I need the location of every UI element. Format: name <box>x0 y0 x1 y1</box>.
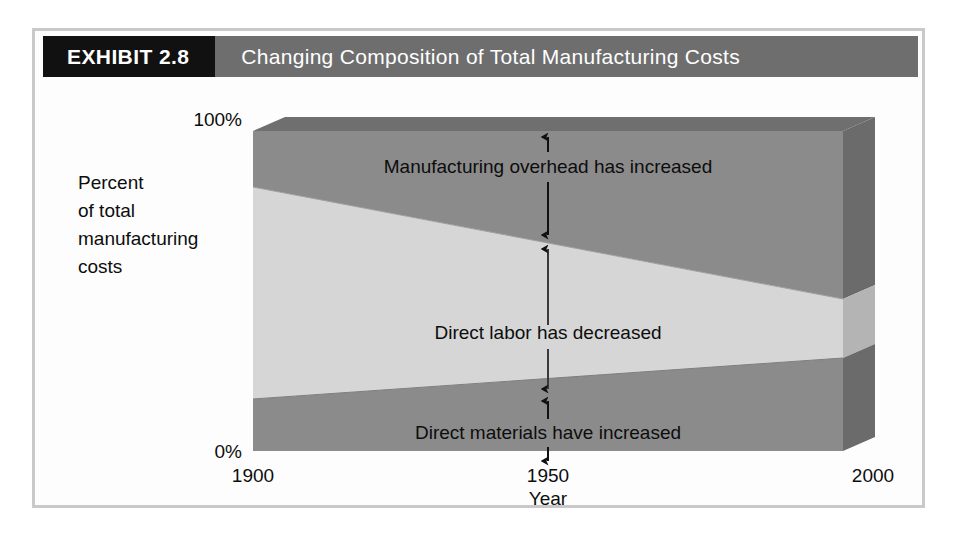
labor-annotation-label: Direct labor has decreased <box>434 322 661 343</box>
materials-side-face <box>843 344 875 451</box>
y-axis-title-line-2: of total <box>78 200 135 221</box>
exhibit-title-text: Changing Composition of Total Manufactur… <box>215 36 918 77</box>
y-axis-title-line-3: manufacturing <box>78 228 198 249</box>
y-axis-top-tick: 100% <box>193 109 242 130</box>
overhead-annotation-label: Manufacturing overhead has increased <box>384 156 712 177</box>
y-axis-title: Percent of total manufacturing costs <box>78 172 198 277</box>
y-axis-title-line-1: Percent <box>78 172 144 193</box>
overhead-side-face <box>843 117 875 299</box>
stacked-area-chart: 100% 0% 1900 1950 2000 Year Percent of t… <box>35 77 928 505</box>
x-axis-tick-1900: 1900 <box>232 465 274 486</box>
exhibit-number-tag: EXHIBIT 2.8 <box>43 36 215 77</box>
x-axis-tick-2000: 2000 <box>852 465 894 486</box>
materials-annotation-label: Direct materials have increased <box>415 422 681 443</box>
x-axis-title: Year <box>529 488 568 505</box>
exhibit-title-bar: EXHIBIT 2.8 Changing Composition of Tota… <box>43 36 918 77</box>
overhead-top-face <box>253 117 875 131</box>
exhibit-panel: EXHIBIT 2.8 Changing Composition of Tota… <box>32 28 925 508</box>
x-axis-tick-1950: 1950 <box>527 465 569 486</box>
y-axis-bottom-tick: 0% <box>215 441 243 462</box>
chart-canvas: 100% 0% 1900 1950 2000 Year Percent of t… <box>35 77 928 505</box>
y-axis-title-line-4: costs <box>78 256 122 277</box>
